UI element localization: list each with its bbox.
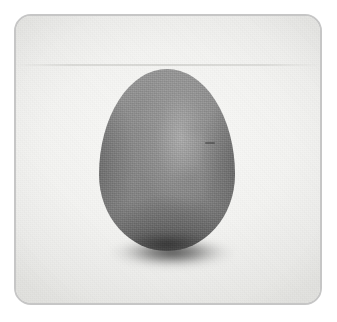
photo-card (0, 0, 337, 322)
stone-base-shading (113, 227, 222, 251)
photo-frame (14, 14, 322, 305)
stone-object (99, 69, 235, 251)
stone-surface-grain (99, 69, 235, 251)
stone-surface-mark (205, 142, 215, 144)
